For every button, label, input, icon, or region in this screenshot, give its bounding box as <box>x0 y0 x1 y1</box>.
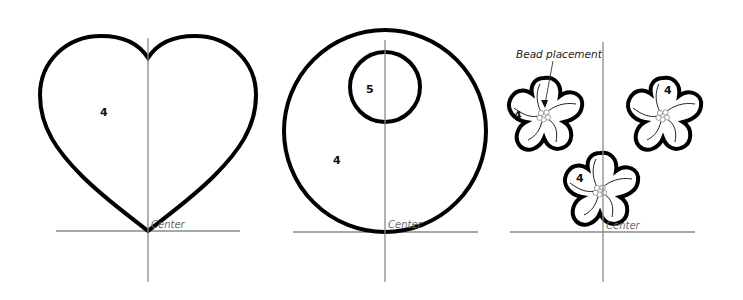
flower-top-right-region-label: 4 <box>664 84 672 97</box>
flower-top-left-region-label: 4 <box>514 109 522 122</box>
diagram-canvas: 4 Center 5 4 Center <box>0 0 743 300</box>
flowers-panel: 4 4 4 Bead placement Center <box>509 42 701 282</box>
inner-circle-region-label: 5 <box>366 83 374 96</box>
circle-panel: 5 4 Center <box>284 30 486 282</box>
heart-region-label: 4 <box>100 106 108 119</box>
bead-placement-callout: Bead placement <box>516 48 603 60</box>
flower-bottom-region-label: 4 <box>576 172 584 185</box>
heart-center-label: Center <box>151 219 186 230</box>
outer-circle-region-label: 4 <box>333 154 341 167</box>
circle-center-label: Center <box>388 219 423 230</box>
flower-bottom-center <box>565 153 638 225</box>
flowers-center-label: Center <box>606 220 641 231</box>
heart-panel: 4 Center <box>40 36 256 282</box>
